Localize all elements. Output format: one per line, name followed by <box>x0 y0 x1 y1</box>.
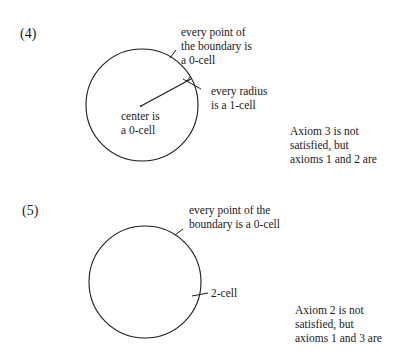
figure-4-boundary-label-line2: the boundary is <box>181 39 252 53</box>
figure-5-caption-line2: satisfied, but <box>295 317 354 331</box>
figure-4-center-point <box>140 105 142 107</box>
figure-5-interior-label: 2-cell <box>211 286 237 300</box>
figure-5-boundary-leader <box>175 229 183 235</box>
figure-5-circle <box>89 226 201 338</box>
figure-4-radius-label-line1: every radius <box>211 84 268 98</box>
figure-5-boundary-label-line1: every point of the <box>189 203 270 217</box>
figure-4-caption-line1: Axiom 3 is not <box>290 124 359 138</box>
figure-5-boundary-label-line2: boundary is a 0-cell <box>189 217 280 231</box>
figure-5-number: (5) <box>22 203 38 219</box>
figure-5-caption-line3: axioms 1 and 3 are <box>295 331 382 345</box>
figure-4-boundary-label-line1: every point of <box>181 25 246 39</box>
figure-4-radius <box>141 79 191 106</box>
figure-4-center-label-line1: center is <box>121 109 160 123</box>
figure-4-boundary-label-line3: a 0-cell <box>181 53 215 67</box>
figure-5-caption-line1: Axiom 2 is not <box>295 303 364 317</box>
figure-4-number: (4) <box>20 26 36 42</box>
figure-4-caption-line2: satisfied, but <box>290 138 349 152</box>
figure-4-boundary-leader <box>170 50 176 58</box>
figure-4-caption-line3: axioms 1 and 2 are <box>290 152 377 166</box>
figure-4-radius-label-line2: is a 1-cell <box>211 98 256 112</box>
figure-4-center-label-line2: a 0-cell <box>121 123 155 137</box>
